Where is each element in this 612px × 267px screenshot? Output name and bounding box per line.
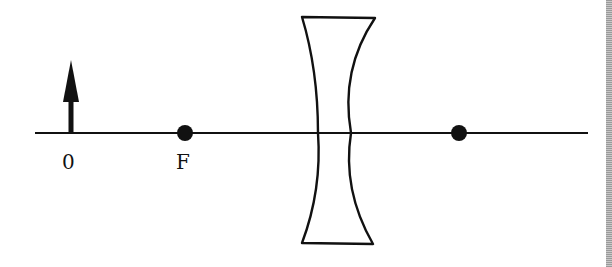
scan-edge-strip [606,0,612,267]
focal-point-right [451,125,467,141]
optics-diagram: 0 F [0,0,612,267]
object-label: 0 [62,150,75,174]
focal-point-label: F [176,150,190,174]
object-arrow-icon [63,60,79,133]
diagram-svg [0,0,612,267]
concave-lens [302,17,375,244]
focal-point-left [177,125,193,141]
